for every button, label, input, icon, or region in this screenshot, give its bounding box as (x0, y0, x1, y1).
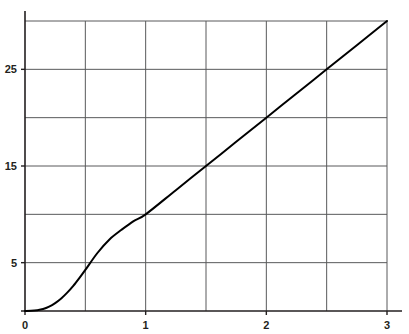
chart-axes (21, 11, 402, 315)
x-tick-label: 1 (143, 320, 149, 331)
line-chart-plot (0, 0, 409, 334)
x-tick-label: 0 (22, 320, 28, 331)
x-tick-label: 2 (263, 320, 269, 331)
y-tick-label: 15 (0, 161, 17, 172)
chart-container: 51525 0123 (0, 0, 409, 334)
y-tick-label: 25 (0, 64, 17, 75)
x-tick-label: 3 (384, 320, 390, 331)
y-tick-label: 5 (0, 257, 17, 268)
